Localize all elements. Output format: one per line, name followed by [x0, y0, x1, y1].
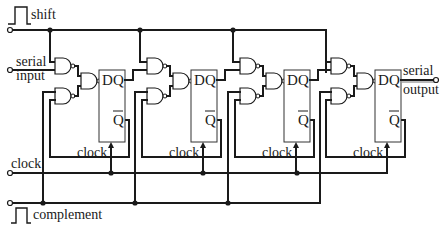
svg-text:Q: Q: [389, 112, 400, 128]
stage-2: D Q Q clock: [135, 30, 240, 203]
clock-label: clock: [11, 156, 41, 171]
svg-text:D: D: [287, 72, 298, 88]
nand-gate: [240, 88, 256, 104]
pulse-icon: [8, 7, 31, 24]
serial-output-label: serial: [403, 63, 433, 78]
complement-label: complement: [33, 207, 102, 222]
stage-4: D Q Q clock: [320, 58, 405, 173]
nand-gate: [55, 58, 71, 74]
nand-gate: [266, 73, 282, 89]
svg-text:Q: Q: [113, 72, 124, 88]
svg-text:D: D: [102, 72, 113, 88]
stage-3: D Q Q clock: [228, 30, 333, 203]
svg-text:clock: clock: [262, 145, 292, 160]
svg-text:Q: Q: [113, 112, 124, 128]
pulse-icon: [11, 208, 31, 223]
svg-text:Q: Q: [298, 72, 309, 88]
nand-gate: [55, 88, 71, 104]
shift-label: shift: [31, 7, 56, 22]
svg-text:clock: clock: [353, 145, 383, 160]
svg-text:Q: Q: [205, 72, 216, 88]
nand-gate: [357, 73, 373, 89]
shift-register-diagram: shift serial input clock complement: [0, 0, 447, 228]
svg-text:Q: Q: [298, 112, 309, 128]
nand-gate: [331, 58, 347, 74]
svg-text:D: D: [378, 72, 389, 88]
nand-gate: [147, 58, 163, 74]
nand-gate: [173, 73, 189, 89]
serial-output-label-2: output: [403, 82, 439, 97]
svg-text:D: D: [194, 72, 205, 88]
nand-gate: [147, 88, 163, 104]
svg-text:clock: clock: [169, 145, 199, 160]
shift-terminal: [8, 28, 13, 33]
complement-terminal: [8, 201, 13, 206]
nand-gate: [81, 73, 97, 89]
serial-input-terminal: [8, 68, 13, 73]
clock-terminal: [8, 171, 13, 176]
svg-text:Q: Q: [205, 112, 216, 128]
nand-gate: [240, 58, 256, 74]
svg-text:clock: clock: [77, 145, 107, 160]
nand-gate: [331, 88, 347, 104]
serial-input-label: serial: [16, 54, 46, 69]
serial-input: serial input: [8, 54, 56, 83]
svg-text:Q: Q: [389, 72, 400, 88]
stage-1: D Q Q clock: [43, 30, 147, 203]
serial-output: serial output: [401, 63, 439, 97]
